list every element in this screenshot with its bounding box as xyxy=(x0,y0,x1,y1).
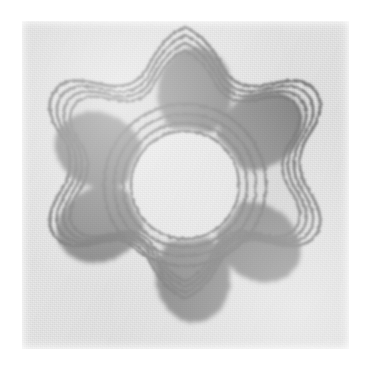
scanned-paper-sheet xyxy=(22,21,349,349)
contour-density-map xyxy=(22,21,349,349)
central-void-fill xyxy=(129,129,241,241)
figure-root xyxy=(0,0,370,371)
